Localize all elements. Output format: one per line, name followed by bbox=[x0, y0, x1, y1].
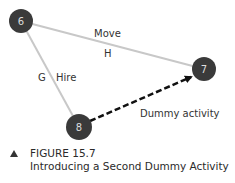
node-8: 8 bbox=[66, 114, 92, 140]
label-g: G bbox=[38, 72, 46, 83]
node-7: 7 bbox=[192, 57, 216, 81]
node-6: 6 bbox=[9, 9, 33, 33]
label-hire: Hire bbox=[56, 72, 76, 83]
triangle-icon bbox=[10, 150, 18, 157]
label-dummy-activity: Dummy activity bbox=[140, 108, 220, 119]
figure-caption: FIGURE 15.7 Introducing a Second Dummy A… bbox=[10, 147, 229, 173]
figure-number: FIGURE 15.7 bbox=[30, 147, 96, 160]
label-h: H bbox=[104, 48, 112, 59]
label-move: Move bbox=[94, 28, 121, 39]
svg-text:6: 6 bbox=[18, 16, 24, 27]
svg-text:8: 8 bbox=[76, 122, 82, 133]
figure-title: Introducing a Second Dummy Activity bbox=[30, 160, 229, 173]
svg-text:7: 7 bbox=[201, 64, 207, 75]
